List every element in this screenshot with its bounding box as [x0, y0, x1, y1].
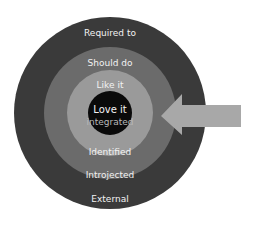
label-should-do: Should do [88, 58, 133, 68]
label-love-it: Love it [93, 104, 127, 115]
label-like-it: Like it [97, 80, 124, 90]
motivation-diagram: Required to Should do Like it Love it in… [0, 0, 254, 229]
label-external: External [91, 194, 128, 204]
label-identified: Identified [89, 147, 132, 157]
label-integrated: integrated [87, 117, 134, 127]
label-introjected: Introjected [86, 170, 135, 180]
label-required-to: Required to [84, 28, 136, 38]
